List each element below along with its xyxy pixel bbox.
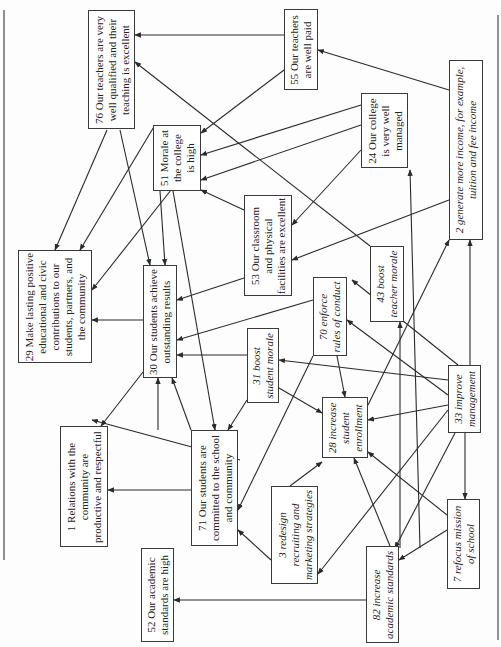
arrow-27 <box>337 356 345 397</box>
node-label: 30 Our students achieve outstanding resu… <box>147 269 173 375</box>
arrow-14 <box>80 125 155 250</box>
arrow-12 <box>55 130 107 250</box>
arrow-33 <box>279 360 448 380</box>
node-label: 53 Our classroom and physical facilities… <box>249 197 288 294</box>
node-7: 7 refocus mission of school <box>447 499 480 589</box>
node-70: 70 enforce rules of conduct <box>313 277 347 356</box>
node-31: 31 boost student morale <box>247 328 279 403</box>
node-label: 43 boost teacher morale <box>374 251 400 318</box>
node-30: 30 Our students achieve outstanding resu… <box>143 265 177 378</box>
node-label: 71 Our students are committed to the sch… <box>195 435 234 541</box>
arrow-35 <box>368 405 448 420</box>
arrow-8 <box>201 190 244 210</box>
causal-map: 76 Our teachers are very well qualified … <box>0 0 501 647</box>
arrow-4 <box>201 125 361 180</box>
node-label: 28 increase student enrollment <box>326 402 365 453</box>
node-24: 24 Our college is very well managed <box>361 93 408 168</box>
arrow-21 <box>172 378 191 430</box>
arrow-41 <box>399 530 447 560</box>
node-label: 29 Make lasting positive educational and… <box>23 252 88 360</box>
node-label: 2 generate more income, for example, tui… <box>453 67 479 234</box>
arrow-9 <box>177 278 244 300</box>
node-label: 24 Our college is very well managed <box>365 98 404 163</box>
node-label: 52 Our academic standards are high <box>145 555 171 635</box>
node-43: 43 boost teacher morale <box>370 246 404 322</box>
node-33: 33 improve management <box>448 365 481 433</box>
node-55: 55 Our teachers are well paid <box>284 9 318 90</box>
arrow-31 <box>354 458 390 546</box>
node-29: 29 Make lasting positive educational and… <box>18 250 92 363</box>
node-82: 82 increase academic standards <box>366 546 399 643</box>
node-label: 51 Morale at the college is high <box>158 130 197 186</box>
node-label: 33 improve management <box>452 371 478 427</box>
arrow-24 <box>228 400 247 430</box>
arrow-28 <box>238 530 271 560</box>
node-2: 2 generate more income, for example, tui… <box>449 60 483 240</box>
arrow-17 <box>160 191 165 265</box>
arrow-13 <box>120 130 150 265</box>
arrow-19 <box>101 372 143 426</box>
node-label: 1 Relations with the community are produ… <box>65 431 104 543</box>
node-76: 76 Our teachers are very well qualified … <box>88 10 135 129</box>
node-51: 51 Morale at the college is high <box>153 125 201 191</box>
arrow-7 <box>292 150 361 225</box>
arrow-0 <box>318 50 449 90</box>
arrow-3 <box>201 105 361 155</box>
node-label: 31 boost student morale <box>250 333 276 399</box>
node-label: 3 redesign recruiting and marketing stra… <box>275 490 314 580</box>
node-label: 82 increase academic standards <box>370 551 396 639</box>
node-71: 71 Our students are committed to the sch… <box>191 430 238 546</box>
node-28: 28 increase student enrollment <box>322 397 368 458</box>
arrow-10 <box>177 300 313 340</box>
node-3: 3 redesign recruiting and marketing stra… <box>271 486 318 584</box>
node-label: 7 refocus mission of school <box>451 506 477 583</box>
arrow-37 <box>352 280 458 365</box>
arrow-34 <box>347 320 448 395</box>
node-label: 76 Our teachers are very well qualified … <box>92 15 131 123</box>
arrow-44 <box>410 170 420 548</box>
node-53: 53 Our classroom and physical facilities… <box>244 195 292 296</box>
node-1: 1 Relations with the community are produ… <box>60 426 108 547</box>
arrow-25 <box>279 388 322 413</box>
arrow-29 <box>290 462 322 486</box>
node-52: 52 Our academic standards are high <box>141 548 174 642</box>
arrow-18 <box>173 191 215 430</box>
node-label: 55 Our teachers are well paid <box>288 15 314 85</box>
node-label: 70 enforce rules of conduct <box>317 281 343 352</box>
